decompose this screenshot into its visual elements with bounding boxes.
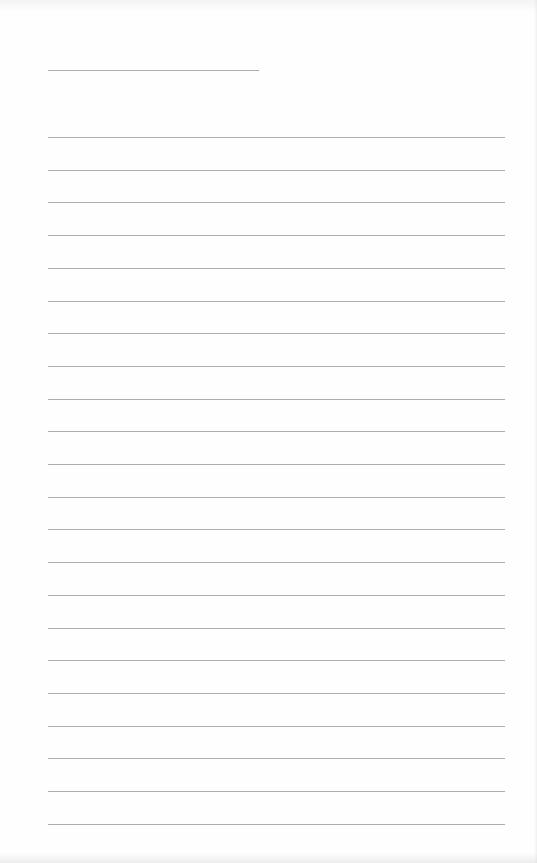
ruled-line bbox=[48, 562, 505, 563]
ruled-line bbox=[48, 301, 505, 302]
ruled-line bbox=[48, 824, 505, 825]
ruled-line bbox=[48, 268, 505, 269]
ruled-line bbox=[48, 464, 505, 465]
ruled-line bbox=[48, 333, 505, 334]
ruled-line bbox=[48, 660, 505, 661]
ruled-line bbox=[48, 726, 505, 727]
ruled-line bbox=[48, 791, 505, 792]
notebook-page bbox=[0, 0, 537, 863]
ruled-line bbox=[48, 235, 505, 236]
ruled-line bbox=[48, 399, 505, 400]
ruled-line bbox=[48, 595, 505, 596]
ruled-line bbox=[48, 366, 505, 367]
ruled-line bbox=[48, 628, 505, 629]
ruled-line bbox=[48, 497, 505, 498]
ruled-line bbox=[48, 137, 505, 138]
ruled-line bbox=[48, 202, 505, 203]
ruled-line bbox=[48, 431, 505, 432]
ruled-lines bbox=[0, 0, 537, 863]
ruled-line bbox=[48, 758, 505, 759]
ruled-line bbox=[48, 693, 505, 694]
ruled-line bbox=[48, 529, 505, 530]
ruled-line bbox=[48, 170, 505, 171]
